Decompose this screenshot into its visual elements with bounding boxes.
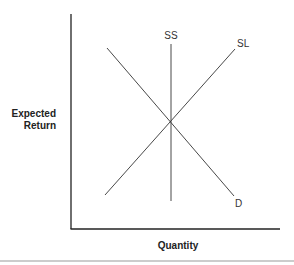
y-axis-label-line2: Return xyxy=(24,120,56,131)
d-curve xyxy=(107,48,234,196)
y-axis-label-line1: Expected xyxy=(12,108,56,119)
ss-label: SS xyxy=(164,30,178,41)
supply-demand-diagram: SS SL D Expected Return Quantity xyxy=(0,0,294,265)
d-label: D xyxy=(235,198,242,209)
x-axis-label: Quantity xyxy=(158,240,199,251)
sl-label: SL xyxy=(237,38,250,49)
